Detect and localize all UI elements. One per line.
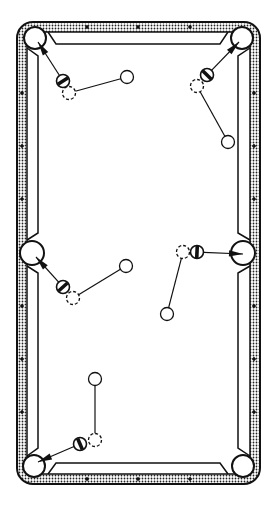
- cue-ball: [222, 136, 235, 149]
- stripe-band: [195, 246, 199, 258]
- pocket-bottom-right: [232, 455, 254, 477]
- ghost-ball: [89, 434, 102, 447]
- cue-ball: [161, 308, 174, 321]
- pocket-bottom-left: [23, 455, 45, 477]
- ghost-ball: [63, 87, 76, 100]
- pocket-top-left: [24, 27, 46, 49]
- cue-ball: [121, 71, 134, 84]
- ghost-ball: [191, 80, 204, 93]
- billiards-diagram: [0, 0, 276, 506]
- pool-table-svg: [0, 0, 276, 506]
- ghost-ball: [67, 292, 80, 305]
- cue-ball: [120, 260, 133, 273]
- ball-stripe: [195, 246, 199, 258]
- ghost-ball: [177, 246, 190, 259]
- cue-ball: [89, 373, 102, 386]
